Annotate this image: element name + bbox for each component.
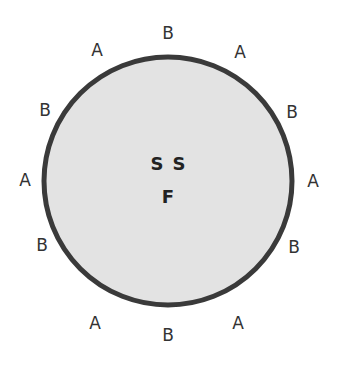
perimeter-label-a: A <box>232 313 244 333</box>
center-label-f: F <box>162 186 174 207</box>
perimeter-label-b: B <box>162 325 174 345</box>
main-circle <box>44 57 292 305</box>
center-label-s: S <box>151 153 164 174</box>
center-label-s: S <box>173 153 186 174</box>
perimeter-label-a: A <box>19 170 31 190</box>
perimeter-label-b: B <box>162 23 174 43</box>
perimeter-label-b: B <box>36 235 48 255</box>
perimeter-label-b: B <box>39 100 51 120</box>
circle-diagram: SSF BABABABABABA <box>0 0 339 369</box>
perimeter-label-a: A <box>234 42 246 62</box>
perimeter-label-b: B <box>286 102 298 122</box>
perimeter-label-b: B <box>288 237 300 257</box>
perimeter-label-a: A <box>91 40 103 60</box>
perimeter-label-a: A <box>307 171 319 191</box>
perimeter-label-a: A <box>89 313 101 333</box>
